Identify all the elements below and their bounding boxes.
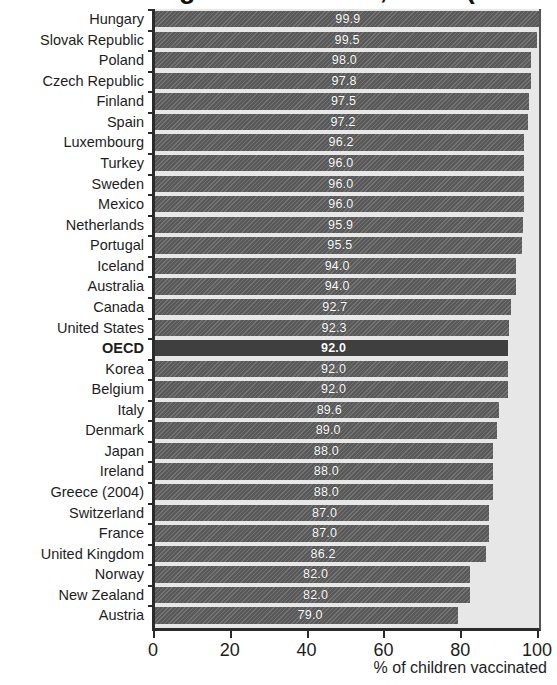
x-axis-tick [537,631,539,638]
bar-value-label: 97.8 [332,73,357,89]
bar-row: 89.6 [155,400,539,421]
x-axis-tick [307,631,309,638]
bar-chart: HungarySlovak RepublicPolandCzech Republ… [0,0,557,685]
category-label-poland: Poland [0,50,152,71]
y-axis-tick [148,564,155,566]
bar-row: 89.0 [155,420,539,441]
bar-value-label: 94.0 [325,278,350,294]
y-axis-tick [148,441,155,443]
x-axis-tick [460,631,462,638]
bar-value-label: 95.9 [328,217,353,233]
category-label-mexico: Mexico [0,194,152,215]
bar-value-label: 92.3 [322,320,347,336]
x-axis-tick-label: 100 [522,640,552,661]
y-axis-tick [148,71,155,73]
y-axis-tick [148,461,155,463]
bar-value-label: 79.0 [298,607,323,623]
category-label-united-kingdom: United Kingdom [0,544,152,565]
y-axis-tick [148,318,155,320]
x-axis-tick-label: 80 [450,640,470,661]
bar-row: 99.5 [155,30,539,51]
y-axis-tick [148,297,155,299]
y-axis-tick [148,605,155,607]
bar-row: 97.8 [155,71,539,92]
category-label-portugal: Portugal [0,235,152,256]
y-axis-tick [148,112,155,114]
y-axis-tick [148,153,155,155]
bar-value-label: 82.0 [303,566,328,582]
bar-value-label: 92.0 [321,381,346,397]
y-axis-tick [148,523,155,525]
bar-value-label: 92.0 [321,340,346,356]
y-axis-tick [148,359,155,361]
bar-value-label: 89.0 [316,422,341,438]
y-axis-tick [148,215,155,217]
category-label-denmark: Denmark [0,420,152,441]
bar-value-label: 97.5 [331,93,356,109]
category-label-italy: Italy [0,400,152,421]
bar-row: 88.0 [155,461,539,482]
plot-area: 99.999.598.097.897.597.296.296.096.096.0… [152,9,541,631]
bar-row: 92.0 [155,379,539,400]
bar-row: 86.2 [155,544,539,565]
bar-row: 96.0 [155,194,539,215]
category-label-iceland: Iceland [0,256,152,277]
y-axis-tick [148,9,155,11]
bar-row: 98.0 [155,50,539,71]
bar-value-label: 88.0 [314,443,339,459]
y-axis-tick [148,132,155,134]
bar-row: 92.0 [155,338,539,359]
x-axis-tick-label: 20 [220,640,240,661]
bar-row: 97.5 [155,91,539,112]
y-axis-tick [148,503,155,505]
bar-value-label: 87.0 [312,525,337,541]
category-label-czech-republic: Czech Republic [0,71,152,92]
y-axis-tick [148,235,155,237]
category-label-slovak-republic: Slovak Republic [0,30,152,51]
y-axis-tick [148,482,155,484]
x-axis-tick-label: 60 [373,640,393,661]
x-axis-title: % of children vaccinated [374,659,547,677]
y-axis-tick [148,400,155,402]
bar-value-label: 96.0 [328,176,353,192]
bar-value-label: 99.5 [335,32,360,48]
category-label-turkey: Turkey [0,153,152,174]
bar-value-label: 96.0 [328,196,353,212]
bar-value-label: 94.0 [325,258,350,274]
category-label-ireland: Ireland [0,461,152,482]
x-axis-tick [383,631,385,638]
category-label-netherlands: Netherlands [0,215,152,236]
y-axis-tick [148,379,155,381]
y-axis-tick [148,194,155,196]
y-axis-tick [148,30,155,32]
bar-value-label: 82.0 [303,587,328,603]
bar-value-label: 88.0 [314,484,339,500]
bar-row: 82.0 [155,564,539,585]
bar-row: 92.0 [155,359,539,380]
bar-row: 92.3 [155,318,539,339]
category-label-sweden: Sweden [0,174,152,195]
bar-value-label: 96.2 [329,134,354,150]
category-label-korea: Korea [0,359,152,380]
bar-row: 97.2 [155,112,539,133]
category-label-austria: Austria [0,605,152,626]
bar-row: 96.2 [155,132,539,153]
x-axis-tick-label: 40 [297,640,317,661]
x-axis-tick [230,631,232,638]
bar-row: 95.9 [155,215,539,236]
category-label-norway: Norway [0,564,152,585]
category-label-switzerland: Switzerland [0,503,152,524]
bar-row: 94.0 [155,256,539,277]
category-label-australia: Australia [0,276,152,297]
category-label-oecd: OECD [0,338,152,359]
x-axis-tick [153,631,155,638]
y-axis-tick [148,174,155,176]
category-label-belgium: Belgium [0,379,152,400]
bar-row: 88.0 [155,441,539,462]
bar-row: 99.9 [155,9,539,30]
bar-row: 88.0 [155,482,539,503]
bar-value-label: 97.2 [330,114,355,130]
category-label-france: France [0,523,152,544]
bar-value-label: 87.0 [312,505,337,521]
bar-value-label: 95.5 [327,237,352,253]
